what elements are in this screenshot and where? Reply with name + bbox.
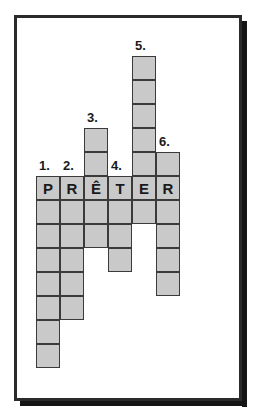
crossword-cell-empty[interactable] xyxy=(108,224,132,248)
crossword-cell-letter[interactable]: R xyxy=(156,176,180,200)
crossword-cell-empty[interactable] xyxy=(84,152,108,176)
crossword-cell-empty[interactable] xyxy=(156,248,180,272)
crossword-cell-empty[interactable] xyxy=(60,224,84,248)
crossword-cell-empty[interactable] xyxy=(108,200,132,224)
crossword-cell-empty[interactable] xyxy=(36,224,60,248)
crossword-cell-empty[interactable] xyxy=(36,248,60,272)
crossword-cell-empty[interactable] xyxy=(132,200,156,224)
crossword-cell-empty[interactable] xyxy=(132,80,156,104)
crossword-cell-empty[interactable] xyxy=(132,152,156,176)
crossword-cell-empty[interactable] xyxy=(156,224,180,248)
crossword-cell-empty[interactable] xyxy=(156,200,180,224)
crossword-cell-letter[interactable]: E xyxy=(132,176,156,200)
crossword-cell-empty[interactable] xyxy=(60,248,84,272)
clue-number-4: 4. xyxy=(111,159,122,172)
crossword-cell-empty[interactable] xyxy=(132,56,156,80)
crossword-cell-empty[interactable] xyxy=(36,344,60,368)
clue-number-1: 1. xyxy=(39,159,50,172)
crossword-grid: P1.R2.Ê3.T4.E5.R6. xyxy=(0,0,258,416)
crossword-cell-empty[interactable] xyxy=(36,200,60,224)
crossword-cell-empty[interactable] xyxy=(132,104,156,128)
crossword-cell-empty[interactable] xyxy=(36,320,60,344)
crossword-cell-empty[interactable] xyxy=(60,296,84,320)
crossword-cell-empty[interactable] xyxy=(108,248,132,272)
crossword-cell-empty[interactable] xyxy=(84,128,108,152)
crossword-cell-empty[interactable] xyxy=(60,272,84,296)
crossword-cell-empty[interactable] xyxy=(36,272,60,296)
crossword-cell-letter[interactable]: Ê xyxy=(84,176,108,200)
clue-number-5: 5. xyxy=(135,39,146,52)
crossword-cell-empty[interactable] xyxy=(84,224,108,248)
crossword-cell-empty[interactable] xyxy=(156,272,180,296)
clue-number-6: 6. xyxy=(159,135,170,148)
crossword-cell-empty[interactable] xyxy=(60,200,84,224)
crossword-cell-empty[interactable] xyxy=(156,152,180,176)
crossword-cell-empty[interactable] xyxy=(132,128,156,152)
crossword-cell-empty[interactable] xyxy=(84,200,108,224)
crossword-cell-letter[interactable]: R xyxy=(60,176,84,200)
crossword-cell-letter[interactable]: T xyxy=(108,176,132,200)
crossword-cell-letter[interactable]: P xyxy=(36,176,60,200)
clue-number-3: 3. xyxy=(87,111,98,124)
clue-number-2: 2. xyxy=(63,159,74,172)
crossword-cell-empty[interactable] xyxy=(36,296,60,320)
